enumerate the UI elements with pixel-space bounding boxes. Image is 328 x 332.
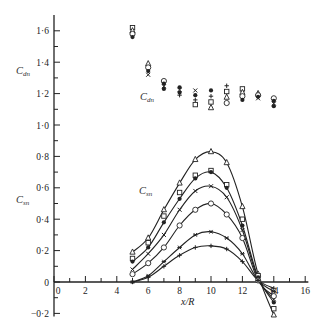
- square-marker: [162, 214, 166, 218]
- open-circle-marker: [240, 235, 245, 240]
- x-tick-label: 4: [114, 286, 119, 296]
- asterisk-marker: [209, 230, 213, 234]
- filled-circle-marker: [209, 170, 213, 174]
- chart-canvas: −0·200·20·40·60·81·01·21·41·602468101214…: [0, 0, 328, 332]
- axes: −0·200·20·40·60·81·01·21·41·602468101214…: [31, 15, 310, 319]
- y-tick-label: 1·2: [36, 89, 49, 99]
- filled-circle-marker: [225, 186, 229, 190]
- open-circle-marker: [208, 201, 213, 206]
- y-tick-label: 1·6: [36, 26, 49, 36]
- open-circle-marker: [130, 272, 135, 277]
- asterisk-marker: [240, 252, 244, 256]
- y-tick-label: 0·2: [36, 246, 49, 256]
- filled-circle-marker: [130, 35, 134, 39]
- filled-circle-marker: [209, 88, 213, 92]
- y-axis-title-csn: Csn: [16, 194, 30, 207]
- y-tick-label: 0·8: [36, 152, 49, 162]
- cross-marker: [146, 252, 150, 256]
- x-axis-title: x/R: [180, 296, 194, 307]
- filled-circle-marker: [178, 197, 182, 201]
- plus-marker: [225, 247, 229, 251]
- open-circle-marker: [161, 245, 166, 250]
- filled-circle-marker: [193, 176, 197, 180]
- triangle-marker: [208, 105, 213, 110]
- x-tick-label: 16: [300, 286, 310, 296]
- triangle-marker: [130, 249, 135, 254]
- annotation-cdn: Cdn: [140, 91, 155, 104]
- triangle-marker: [208, 148, 213, 153]
- square-marker: [240, 217, 244, 221]
- y-tick-label: 1·0: [36, 121, 49, 131]
- plus-marker: [209, 244, 213, 248]
- square-marker: [225, 89, 229, 93]
- x-tick-label: 10: [206, 286, 216, 296]
- triangle-marker: [224, 94, 229, 99]
- y-tick-label: 0·4: [36, 215, 49, 225]
- open-circle-marker: [271, 294, 276, 299]
- curve-triangle: [133, 152, 274, 315]
- x-tick-label: 8: [177, 286, 182, 296]
- csn-curves: [133, 152, 274, 315]
- asterisk-marker: [193, 233, 197, 237]
- asterisk-marker: [225, 236, 229, 240]
- square-marker: [209, 100, 213, 104]
- x-tick-label: 6: [146, 286, 151, 296]
- cross-marker: [178, 208, 182, 212]
- cross-marker: [225, 195, 229, 199]
- plus-marker: [193, 245, 197, 249]
- filled-circle-marker: [240, 223, 244, 227]
- filled-circle-marker: [162, 87, 166, 91]
- filled-circle-marker: [193, 93, 197, 97]
- open-circle-marker: [193, 207, 198, 212]
- triangle-marker: [271, 312, 276, 317]
- square-marker: [272, 306, 276, 310]
- asterisk-marker: [177, 246, 181, 250]
- filled-circle-marker: [272, 104, 276, 108]
- curve-filled-circle: [133, 172, 274, 303]
- y-tick-label: 0: [44, 278, 49, 288]
- plus-marker: [193, 98, 197, 102]
- plus-marker: [209, 94, 213, 98]
- cross-marker: [193, 88, 197, 92]
- cross-marker: [162, 233, 166, 237]
- open-circle-marker: [224, 212, 229, 217]
- x-tick-label: 0: [56, 286, 61, 296]
- x-tick-label: 2: [83, 286, 88, 296]
- annotation-csn: Csn: [139, 185, 153, 198]
- y-tick-label: 1·4: [36, 58, 49, 68]
- y-axis-title-cdn: Cdn: [16, 65, 31, 78]
- x-tick-label: 12: [238, 286, 248, 296]
- cross-marker: [131, 267, 135, 271]
- square-marker: [193, 102, 197, 106]
- cross-marker: [146, 73, 150, 77]
- filled-circle-marker: [240, 98, 244, 102]
- cross-marker: [193, 189, 197, 193]
- open-circle-marker: [224, 100, 229, 105]
- filled-circle-marker: [146, 69, 150, 73]
- plus-marker: [225, 84, 229, 88]
- filled-circle-marker: [162, 220, 166, 224]
- triangle-marker: [240, 203, 245, 208]
- filled-circle-marker: [130, 259, 134, 263]
- open-circle-marker: [177, 223, 182, 228]
- y-tick-label: 0·6: [36, 183, 49, 193]
- filled-circle-marker: [146, 245, 150, 249]
- open-circle-marker: [146, 261, 151, 266]
- square-marker: [177, 190, 181, 194]
- square-marker: [146, 241, 150, 245]
- asterisk-marker: [162, 260, 166, 264]
- y-tick-label: −0·2: [31, 309, 49, 319]
